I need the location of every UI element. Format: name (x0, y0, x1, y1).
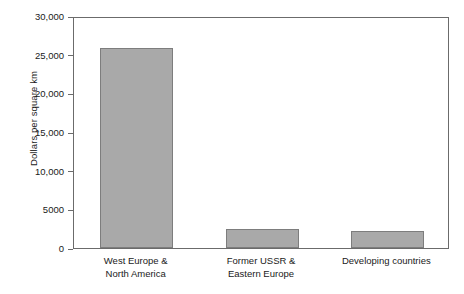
y-tick-label: 15,000 (35, 127, 64, 139)
y-tick: 30,000 (0, 11, 73, 23)
bar (100, 48, 173, 248)
bar (351, 231, 424, 248)
bar-chart: Dollars per square km 0500010,00015,0002… (0, 0, 464, 294)
y-tick-label: 30,000 (35, 11, 64, 23)
bar (226, 229, 299, 248)
y-tick-label: 20,000 (35, 88, 64, 100)
x-axis-labels: West Europe &North AmericaFormer USSR &E… (73, 255, 449, 294)
plot-area (73, 17, 449, 249)
x-axis-label-line: Eastern Europe (171, 268, 351, 281)
y-axis-ticks: 0500010,00015,00020,00025,00030,000 (0, 0, 73, 294)
y-tick: 5000 (0, 204, 73, 216)
y-tick: 15,000 (0, 127, 73, 139)
y-tick-label: 0 (59, 243, 64, 255)
y-tick: 10,000 (0, 166, 73, 178)
x-axis-label: Developing countries (296, 255, 464, 268)
y-tick-label: 5000 (43, 204, 64, 216)
y-tick: 25,000 (0, 50, 73, 62)
y-tick-label: 10,000 (35, 166, 64, 178)
y-tick-label: 25,000 (35, 50, 64, 62)
y-tick: 0 (0, 243, 73, 255)
y-tick: 20,000 (0, 88, 73, 100)
x-axis-label-line: Developing countries (296, 255, 464, 268)
